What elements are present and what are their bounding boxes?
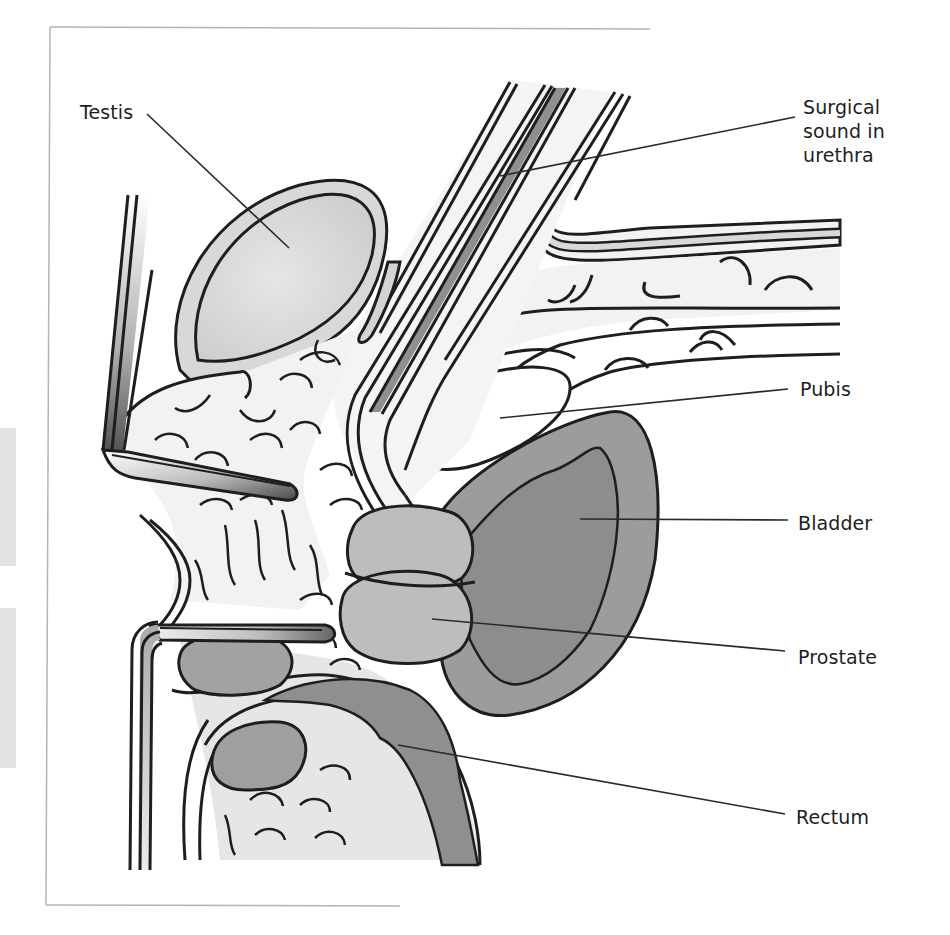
- page-edge-swatch-bottom: [0, 608, 16, 768]
- prostate: [340, 506, 475, 664]
- page-edge-swatch-top: [0, 428, 16, 566]
- rectum: [172, 634, 480, 865]
- leader-bladder: [580, 519, 788, 520]
- label-surgical-sound: Surgical sound in urethra: [803, 95, 885, 167]
- leader-testis: [147, 114, 289, 248]
- anatomy-figure: Testis Surgical sound in urethra Pubis B…: [0, 0, 950, 935]
- label-bladder: Bladder: [798, 511, 872, 535]
- label-testis: Testis: [80, 100, 133, 124]
- label-prostate: Prostate: [798, 645, 877, 669]
- label-pubis: Pubis: [800, 377, 851, 401]
- label-rectum: Rectum: [796, 805, 869, 829]
